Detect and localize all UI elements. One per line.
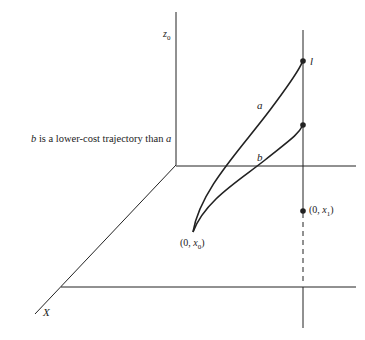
target-open: (0,: [309, 204, 322, 215]
point-l-label: l: [310, 55, 313, 67]
caption: b is a lower-cost trajectory than a: [31, 133, 171, 144]
x-axis: [35, 165, 176, 314]
z-subscript: 0: [167, 34, 171, 42]
x-axis-label: X: [43, 306, 50, 318]
point-b-end: [300, 122, 306, 128]
caption-text: is a lower-cost trajectory than: [36, 133, 166, 144]
z-axis-label: z0: [163, 28, 170, 42]
trajectory-diagram: [0, 0, 365, 340]
trajectory-b: [193, 125, 303, 232]
point-l: [300, 58, 306, 64]
target-close: ): [330, 204, 333, 215]
target-point-label: (0, x1): [309, 204, 334, 218]
start-close: ): [201, 237, 204, 248]
curve-a-label: a: [257, 99, 263, 111]
start-open: (0,: [180, 237, 193, 248]
curve-b-label: b: [257, 151, 263, 163]
caption-a: a: [166, 133, 171, 144]
start-point-label: (0, x0): [180, 237, 205, 251]
point-x1: [300, 208, 306, 214]
